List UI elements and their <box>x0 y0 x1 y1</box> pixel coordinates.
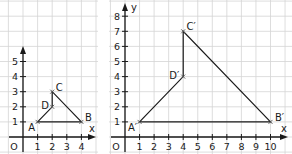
y-tick-label: 6 <box>114 41 120 52</box>
x-tick-label: 3 <box>64 141 70 152</box>
origin-label: O <box>10 141 17 152</box>
y-axis-arrow-icon <box>20 46 26 54</box>
point-label: A′ <box>128 122 138 133</box>
x-tick-label: 2 <box>151 141 157 152</box>
x-tick-label: 6 <box>209 141 215 152</box>
point-label: B <box>85 112 92 123</box>
point-label: D′ <box>169 70 180 81</box>
x-tick-label: 3 <box>166 141 172 152</box>
x-tick-label: 1 <box>137 141 143 152</box>
x-tick-label: 1 <box>35 141 41 152</box>
y-tick-label: 5 <box>12 56 18 67</box>
y-axis-label: y <box>131 2 137 13</box>
x-tick-label: 2 <box>49 141 55 152</box>
y-tick-label: 1 <box>114 116 120 127</box>
diagram-stage: 123412345OxABCD 1234567891012345678OxyA′… <box>0 0 292 154</box>
x-axis-label: x <box>281 123 287 134</box>
point-label: A <box>28 122 35 133</box>
y-tick-label: 4 <box>12 71 18 82</box>
x-tick-label: 9 <box>253 141 259 152</box>
y-tick-label: 5 <box>114 56 120 67</box>
y-tick-label: 3 <box>12 86 18 97</box>
point-label: B′ <box>275 112 285 123</box>
y-tick-label: 2 <box>114 101 120 112</box>
x-tick-label: 10 <box>264 141 276 152</box>
origin-label: O <box>112 141 119 152</box>
coordinate-diagrams: 123412345OxABCD 1234567891012345678OxyA′… <box>0 0 292 154</box>
x-axis-label: x <box>89 123 95 134</box>
y-tick-label: 2 <box>12 101 18 112</box>
y-axis-arrow-icon <box>122 3 128 11</box>
point-label: C <box>56 82 63 93</box>
x-axis-arrow-icon <box>88 134 96 140</box>
point-label: D <box>41 100 49 111</box>
x-tick-label: 5 <box>195 141 201 152</box>
y-tick-label: 4 <box>114 71 120 82</box>
x-tick-label: 8 <box>238 141 244 152</box>
x-tick-label: 7 <box>224 141 230 152</box>
y-tick-label: 7 <box>114 26 120 37</box>
y-tick-label: 1 <box>12 116 18 127</box>
x-axis-arrow-icon <box>280 134 288 140</box>
y-tick-label: 3 <box>114 86 120 97</box>
x-tick-label: 4 <box>180 141 186 152</box>
point-label: C′ <box>187 21 197 32</box>
x-tick-label: 4 <box>78 141 84 152</box>
y-tick-label: 8 <box>114 11 120 22</box>
